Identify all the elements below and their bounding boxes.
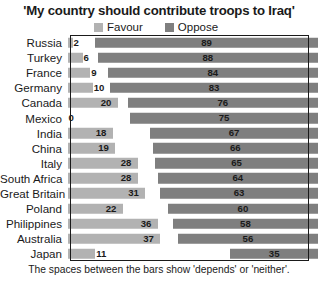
bar-value-favour: 2 <box>74 38 79 48</box>
bar-row: China1966 <box>0 141 318 156</box>
legend-label-oppose: Oppose <box>178 21 218 33</box>
bar-row: Canada2076 <box>0 95 318 110</box>
bar-row-label: Mexico <box>0 112 66 125</box>
bar-favour <box>68 52 83 63</box>
bar-row-label: Great Britain <box>0 187 66 200</box>
bar-favour <box>68 83 93 94</box>
bar-track: 1135 <box>68 246 318 261</box>
legend-item-favour: Favour <box>94 21 143 33</box>
bar-value-oppose: 83 <box>209 83 220 93</box>
legend-swatch-oppose <box>165 23 174 32</box>
bar-row: France984 <box>0 65 318 80</box>
bar-favour <box>68 37 73 48</box>
bar-value-favour: 11 <box>96 249 106 259</box>
bar-value-oppose: 60 <box>238 204 249 214</box>
bar-rows: Russia289Turkey688France984Germany1083Ca… <box>0 35 318 261</box>
bar-track: 2260 <box>68 201 318 216</box>
bar-row: Philippines3658 <box>0 216 318 231</box>
bar-value-favour: 22 <box>106 204 117 214</box>
bar-favour <box>68 249 96 260</box>
bar-row: Great Britain3163 <box>0 186 318 201</box>
bar-value-favour: 20 <box>101 98 112 108</box>
bar-row-label: Canada <box>0 96 66 109</box>
bar-row: Japan1135 <box>0 246 318 261</box>
bar-track: 3658 <box>68 216 318 231</box>
bar-track: 2076 <box>68 95 318 110</box>
bar-row-label: Russia <box>0 36 66 49</box>
bar-row: Turkey688 <box>0 50 318 65</box>
bar-row-label: South Africa <box>0 172 66 185</box>
bar-track: 984 <box>68 65 318 80</box>
bar-value-oppose: 75 <box>219 113 230 123</box>
bar-row-label: Poland <box>0 202 66 215</box>
bar-row: Germany1083 <box>0 80 318 95</box>
bar-value-oppose: 35 <box>269 249 280 259</box>
bar-track: 1867 <box>68 126 318 141</box>
legend-swatch-favour <box>94 23 103 32</box>
bar-track: 3163 <box>68 186 318 201</box>
bar-row: South Africa2864 <box>0 171 318 186</box>
bar-value-oppose: 89 <box>201 38 212 48</box>
bar-value-favour: 28 <box>121 173 132 183</box>
bar-value-oppose: 84 <box>208 68 219 78</box>
bar-row: Poland2260 <box>0 201 318 216</box>
chart-title: 'My country should contribute troops to … <box>0 0 318 18</box>
bar-track: 3756 <box>68 231 318 246</box>
bar-value-favour: 9 <box>91 68 96 78</box>
bar-row-label: France <box>0 66 66 79</box>
bar-value-favour: 18 <box>96 128 107 138</box>
bar-value-favour: 10 <box>94 83 105 93</box>
bar-track: 075 <box>68 110 318 125</box>
bar-favour <box>68 67 91 78</box>
bar-value-oppose: 58 <box>240 219 251 229</box>
bar-row: India1867 <box>0 126 318 141</box>
bar-row-label: Australia <box>0 232 66 245</box>
bar-value-oppose: 88 <box>202 53 213 63</box>
bar-value-oppose: 63 <box>234 188 245 198</box>
chart-legend: Favour Oppose <box>0 20 318 34</box>
chart-plot-area: Russia289Turkey688France984Germany1083Ca… <box>0 35 318 261</box>
bar-row-label: Turkey <box>0 51 66 64</box>
bar-track: 289 <box>68 35 318 50</box>
bar-track: 1966 <box>68 141 318 156</box>
bar-value-oppose: 66 <box>230 143 241 153</box>
bar-row-label: Japan <box>0 247 66 260</box>
bar-row-label: Italy <box>0 157 66 170</box>
bar-track: 2865 <box>68 156 318 171</box>
bar-value-oppose: 65 <box>231 158 242 168</box>
bar-row: Australia3756 <box>0 231 318 246</box>
bar-value-favour: 31 <box>128 188 139 198</box>
bar-track: 2864 <box>68 171 318 186</box>
bar-value-favour: 19 <box>98 143 109 153</box>
bar-row: Mexico075 <box>0 110 318 125</box>
bar-value-oppose: 67 <box>229 128 240 138</box>
bar-track: 1083 <box>68 80 318 95</box>
bar-value-favour: 28 <box>121 158 132 168</box>
bar-row-label: India <box>0 127 66 140</box>
bar-track: 688 <box>68 50 318 65</box>
bar-value-favour: 0 <box>69 113 74 123</box>
bar-row: Italy2865 <box>0 156 318 171</box>
bar-value-favour: 37 <box>143 234 154 244</box>
bar-value-favour: 36 <box>141 219 152 229</box>
legend-item-oppose: Oppose <box>165 21 218 33</box>
bar-value-oppose: 76 <box>218 98 229 108</box>
bar-row-label: China <box>0 142 66 155</box>
bar-row-label: Germany <box>0 81 66 94</box>
bar-value-oppose: 64 <box>233 173 244 183</box>
bar-row: Russia289 <box>0 35 318 50</box>
chart-footnote: The spaces between the bars show 'depend… <box>0 261 318 276</box>
bar-value-favour: 6 <box>84 53 89 63</box>
bar-row-label: Philippines <box>0 217 66 230</box>
legend-label-favour: Favour <box>107 21 143 33</box>
bar-value-oppose: 56 <box>243 234 254 244</box>
